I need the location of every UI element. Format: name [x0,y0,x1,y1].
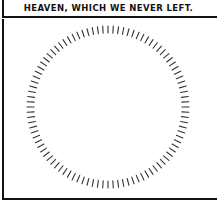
tick-mark [174,71,180,74]
tick-mark [77,32,80,38]
tick-mark [122,28,123,35]
tick-mark [51,159,56,164]
tick-mark [63,169,67,175]
tick-mark [41,62,47,66]
tick-mark [149,40,153,46]
tick-mark [132,30,134,37]
tick-mark [174,140,180,143]
tick-mark [92,28,93,35]
tick-mark [181,121,188,122]
tick-mark [179,126,186,128]
tick-mark [179,86,186,88]
tick-mark [68,37,72,43]
tick-mark [181,96,188,97]
tick-mark [118,27,119,34]
tick-mark [132,177,134,184]
tick-mark [122,180,123,187]
tick-mark [33,135,39,138]
tick-mark [87,178,89,185]
tick-mark [44,58,50,62]
tick-mark [28,96,35,97]
tick-mark [141,173,144,179]
tick-mark [153,43,157,49]
tick-mark [82,177,84,184]
tick-mark [181,117,188,118]
tick-mark [167,152,173,156]
tick-mark [28,117,35,118]
tick-mark [176,135,182,138]
tick-mark [157,163,162,168]
tick-mark [160,159,165,164]
tick-mark [153,166,157,172]
tick-mark [172,144,178,148]
tick-mark [181,91,188,92]
tick-mark [47,54,52,59]
tick-mark [160,50,165,55]
tick-mark [44,152,50,156]
tick-mark [141,34,144,40]
tick-mark [63,40,67,46]
tick-mark [30,126,37,128]
tick-mark [176,76,182,79]
tick-mark [127,29,129,36]
tick-mark [55,46,60,51]
tick-mark [136,175,139,181]
tick-mark [55,163,60,168]
tick-mark [72,34,75,40]
tick-mark [41,148,47,152]
tick-mark [33,76,39,79]
tick-mark [35,71,41,74]
tick-mark [97,27,98,34]
tick-mark [29,121,36,122]
tick-mark [145,171,149,177]
tick-mark [172,67,178,71]
tick-mark [38,67,44,71]
tick-circle [0,0,217,220]
tick-mark [82,30,84,37]
tick-mark [92,180,93,187]
tick-mark [68,171,72,177]
tick-mark [30,86,37,88]
tick-mark [167,58,173,62]
tick-mark [72,173,75,179]
tick-mark [145,37,149,43]
tick-mark [31,131,38,133]
tick-mark [118,180,119,187]
tick-mark [77,175,80,181]
tick-mark [47,156,52,161]
tick-mark [170,62,176,66]
tick-mark [127,178,129,185]
tick-mark [178,131,185,133]
tick-mark [97,180,98,187]
tick-mark [31,81,38,83]
tick-mark [29,91,36,92]
tick-mark [164,54,169,59]
tick-mark [170,148,176,152]
tick-mark [59,166,63,172]
tick-mark [87,29,89,36]
tick-mark [38,144,44,148]
tick-mark [149,169,153,175]
tick-mark [35,140,41,143]
tick-mark [164,156,169,161]
tick-mark [59,43,63,49]
tick-mark [51,50,56,55]
tick-mark [178,81,185,83]
tick-mark [157,46,162,51]
tick-mark [136,32,139,38]
